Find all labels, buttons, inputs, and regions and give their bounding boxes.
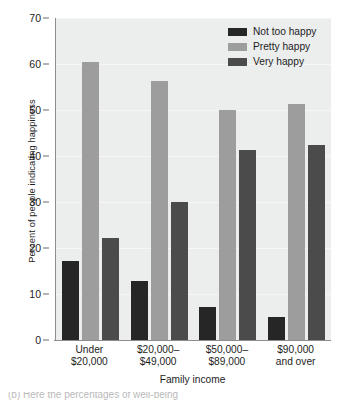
y-tick-label: 70 [29,12,41,24]
y-tick-mark [43,340,49,341]
bar-group [56,18,125,340]
bar [62,261,79,340]
bar [288,104,305,340]
figure-caption-clipped: (b) Here the percentages of well-being [0,392,340,401]
bar [82,62,99,340]
x-axis-title: Family income [55,374,330,385]
bar [171,202,188,340]
y-tick-label: 30 [29,196,41,208]
bar [268,317,285,340]
bar [219,110,236,340]
y-axis-ticks: 010203040506070 [0,0,52,401]
bar [308,145,325,340]
y-tick-label: 40 [29,150,41,162]
y-tick-mark [43,64,49,65]
figure-caption-text: (b) Here the percentages of well-being [8,392,178,400]
bar [199,307,216,340]
bar [131,281,148,340]
y-tick-label: 20 [29,242,41,254]
legend-label-pretty-happy: Pretty happy [253,42,310,52]
legend-label-not-too-happy: Not too happy [253,27,316,37]
y-tick-label: 50 [29,104,41,116]
bar-chart-figure: Percent of people indicating happiness 0… [0,0,340,401]
x-tick-label: $90,000and over [256,344,336,368]
x-tick-label-line: $90,000 [256,344,336,356]
bar [239,150,256,340]
x-axis-line [54,340,331,341]
legend-swatch-icon-not-too-happy [228,28,247,36]
legend-item-not-too-happy: Not too happy [228,26,316,38]
bar [151,81,168,340]
y-tick-mark [43,202,49,203]
legend-item-very-happy: Very happy [228,56,316,68]
bar [102,238,119,340]
legend-item-pretty-happy: Pretty happy [228,41,316,53]
y-tick-label: 60 [29,58,41,70]
y-tick-label: 0 [35,334,41,346]
x-tick-label-line: and over [256,356,336,368]
bar-group [125,18,194,340]
y-tick-mark [43,294,49,295]
y-tick-label: 10 [29,288,41,300]
legend-label-very-happy: Very happy [253,57,304,67]
y-tick-mark [43,248,49,249]
y-tick-mark [43,156,49,157]
y-tick-mark [43,110,49,111]
legend-swatch-icon-pretty-happy [228,43,247,51]
y-tick-mark [43,18,49,19]
x-axis-tick-labels: Under$20,000$20,000–$49,000$50,000–$89,0… [55,344,330,374]
legend-swatch-icon-very-happy [228,58,247,66]
chart-legend: Not too happy Pretty happy Very happy [228,26,316,68]
